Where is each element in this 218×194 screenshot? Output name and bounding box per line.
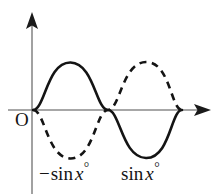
variable-x: x	[73, 163, 83, 184]
variable-x: x	[143, 163, 153, 184]
curve-label-positive-sin: sinx°	[121, 161, 160, 183]
figure-canvas	[0, 0, 218, 194]
degree-symbol: °	[83, 160, 89, 175]
degree-symbol: °	[154, 160, 160, 175]
origin-label: O	[15, 110, 29, 129]
function-name-sin: sin	[121, 163, 143, 184]
sine-curve-figure: O −sinx° sinx°	[0, 0, 218, 194]
curve-label-negative-sin: −sinx°	[39, 161, 89, 183]
minus-sign: −	[39, 163, 51, 184]
function-name-sin: sin	[51, 163, 73, 184]
